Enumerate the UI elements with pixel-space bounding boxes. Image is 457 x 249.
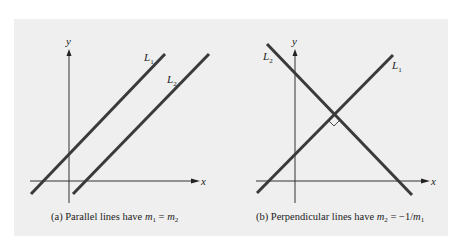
y-axis-label: y bbox=[291, 35, 297, 47]
x-axis-label: x bbox=[200, 175, 206, 187]
x-axis-label: x bbox=[430, 175, 436, 187]
y-axis-label: y bbox=[65, 35, 71, 47]
figure: y x L1 L2 (a) Parallel lines have m1 = m… bbox=[0, 0, 457, 249]
figure-background bbox=[14, 19, 448, 236]
